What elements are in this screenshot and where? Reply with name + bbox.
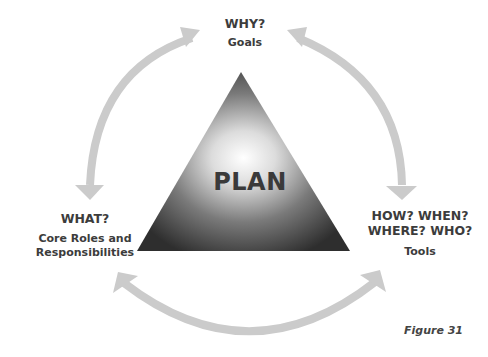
how-question-1: HOW? WHEN? <box>358 208 482 223</box>
plan-triangle <box>137 72 350 251</box>
what-question: WHAT? <box>10 211 160 226</box>
what-subtitle-1: Core Roles and <box>10 232 160 246</box>
node-what: WHAT? Core Roles and Responsibilities <box>10 211 160 260</box>
plan-label: PLAN <box>210 168 290 196</box>
figure-caption: Figure 31 <box>404 324 463 337</box>
node-why: WHY? Goals <box>200 16 290 50</box>
arrowhead-how <box>386 186 417 200</box>
how-question-2: WHERE? WHO? <box>358 223 482 238</box>
arrow-what-how <box>124 282 375 331</box>
why-question: WHY? <box>200 16 290 31</box>
arrowhead-what <box>75 185 104 200</box>
what-subtitle-2: Responsibilities <box>10 246 160 260</box>
why-subtitle: Goals <box>200 36 290 50</box>
arrow-why-what <box>90 38 192 185</box>
arrow-why-how <box>298 38 402 185</box>
how-subtitle: Tools <box>358 245 482 259</box>
node-how: HOW? WHEN? WHERE? WHO? Tools <box>358 208 482 259</box>
